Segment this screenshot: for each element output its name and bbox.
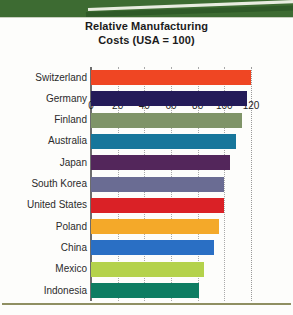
bar-finland	[91, 113, 242, 128]
chart-row: Mexico	[91, 259, 251, 280]
category-label-switzerland: Switzerland	[3, 71, 87, 85]
chart-row: Finland	[91, 110, 251, 131]
chart-row: Japan	[91, 152, 251, 173]
bar-united-states	[91, 198, 224, 213]
chart-title-line-1: Relative Manufacturing	[0, 20, 293, 34]
category-label-japan: Japan	[3, 156, 87, 170]
chart-row: South Korea	[91, 174, 251, 195]
category-label-australia: Australia	[3, 134, 87, 148]
chart-row: Australia	[91, 131, 251, 152]
page-footer-rule	[2, 303, 291, 305]
bar-china	[91, 240, 214, 255]
chart-row: Switzerland	[91, 67, 251, 88]
category-label-finland: Finland	[3, 113, 87, 127]
category-label-germany: Germany	[3, 92, 87, 106]
category-label-mexico: Mexico	[3, 262, 87, 276]
chart-row: China	[91, 237, 251, 258]
category-label-poland: Poland	[3, 220, 87, 234]
page-header-band	[0, 0, 293, 17]
plot-area: 020406080100120 SwitzerlandGermanyFinlan…	[91, 67, 251, 301]
category-label-south-korea: South Korea	[3, 177, 87, 191]
bar-australia	[91, 134, 236, 149]
chart-row: Indonesia	[91, 280, 251, 301]
bar-south-korea	[91, 177, 224, 192]
category-label-united-states: United States	[3, 198, 87, 212]
bar-switzerland	[91, 70, 251, 85]
category-label-china: China	[3, 241, 87, 255]
chart-row: Germany	[91, 88, 251, 109]
bar-indonesia	[91, 283, 199, 298]
bar-chart: Relative Manufacturing Costs (USA = 100)…	[0, 17, 293, 303]
chart-title: Relative Manufacturing Costs (USA = 100)	[0, 20, 293, 47]
page-background: Relative Manufacturing Costs (USA = 100)…	[0, 0, 293, 315]
chart-row: United States	[91, 195, 251, 216]
chart-title-line-2: Costs (USA = 100)	[0, 34, 293, 48]
bar-germany	[91, 91, 247, 106]
bar-mexico	[91, 262, 204, 277]
category-label-indonesia: Indonesia	[3, 284, 87, 298]
bar-japan	[91, 155, 230, 170]
bar-poland	[91, 219, 219, 234]
chart-row: Poland	[91, 216, 251, 237]
